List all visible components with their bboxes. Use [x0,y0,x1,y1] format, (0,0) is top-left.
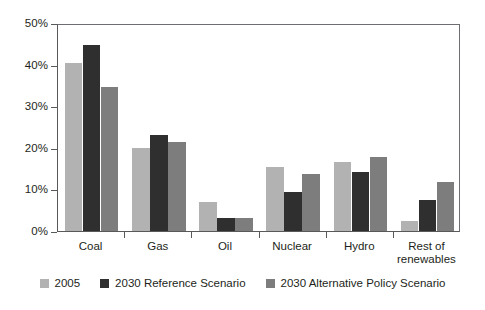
bar [352,172,370,231]
bar [101,87,119,231]
x-axis-tick-mark [191,232,192,238]
legend-swatch-icon [100,279,109,288]
legend-label: 2030 Alternative Policy Scenario [281,278,446,290]
y-axis-tick-mark [51,24,57,25]
y-axis-tick-label: 20% [0,143,48,155]
x-axis-category-label: Rest of renewables [397,240,456,265]
y-axis-tick-mark [51,107,57,108]
bar [334,162,352,231]
y-axis: 0%10%20%30%40%50% [0,24,48,232]
legend-swatch-icon [40,279,49,288]
legend-label: 2030 Reference Scenario [115,278,245,290]
x-axis-category-label: Hydro [344,240,375,253]
y-axis-tick-label: 0% [0,226,48,238]
plot-area [57,24,460,232]
y-axis-tick-label: 40% [0,60,48,72]
legend-item: 2030 Reference Scenario [100,278,245,290]
x-axis-tick-mark [393,232,394,238]
legend-item: 2030 Alternative Policy Scenario [266,278,446,290]
bar [437,182,455,232]
legend-swatch-icon [266,279,275,288]
y-axis-tick-mark [51,190,57,191]
x-axis-category-label: Gas [147,240,168,253]
bar [150,135,168,231]
bar [401,221,419,231]
bar [65,63,83,231]
y-axis-tick-label: 30% [0,101,48,113]
bar [83,45,101,231]
bar [302,174,320,231]
bar-chart-figure: 0%10%20%30%40%50% CoalGasOilNuclearHydro… [0,0,485,310]
y-axis-tick-label: 10% [0,185,48,197]
y-axis-tick-mark [51,232,57,233]
legend-label: 2005 [55,278,81,290]
bar [217,218,235,231]
x-axis-tick-mark [124,232,125,238]
bar [266,167,284,231]
x-axis-tick-mark [259,232,260,238]
x-axis-category-label: Coal [79,240,103,253]
x-axis-tick-mark [326,232,327,238]
bar [370,157,388,231]
bar [235,218,253,231]
bar [419,200,437,231]
chart-legend: 20052030 Reference Scenario2030 Alternat… [0,278,485,290]
y-axis-tick-mark [51,149,57,150]
bar [168,142,186,231]
legend-item: 2005 [40,278,81,290]
bar [132,148,150,231]
bar [284,192,302,231]
x-axis-category-label: Oil [218,240,232,253]
y-axis-tick-mark [51,66,57,67]
x-axis-category-label: Nuclear [272,240,312,253]
y-axis-tick-label: 50% [0,18,48,30]
bar [199,202,217,231]
